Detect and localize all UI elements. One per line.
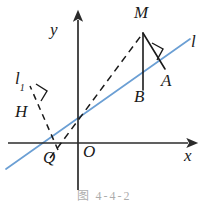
point-label-O: O bbox=[83, 143, 95, 160]
right-angle-at-H bbox=[36, 84, 47, 101]
point-label-M: M bbox=[134, 4, 148, 21]
point-label-Q: Q bbox=[43, 149, 55, 166]
point-label-B: B bbox=[134, 88, 144, 105]
figure-canvas bbox=[0, 0, 208, 202]
geometry-figure: M A B H Q O y x l l1 图 4-4-2 bbox=[0, 0, 208, 202]
point-label-H: H bbox=[15, 103, 27, 120]
label-line-l: l bbox=[191, 33, 196, 50]
line-l bbox=[6, 39, 190, 169]
label-line-l1-subscript: 1 bbox=[20, 82, 25, 93]
label-axis-x: x bbox=[184, 147, 192, 164]
label-axis-y: y bbox=[50, 21, 58, 38]
line-MQ-dashed bbox=[50, 33, 143, 158]
point-label-A: A bbox=[161, 72, 171, 89]
label-line-l1: l1 bbox=[15, 70, 25, 90]
figure-caption: 图 4-4-2 bbox=[0, 186, 208, 202]
